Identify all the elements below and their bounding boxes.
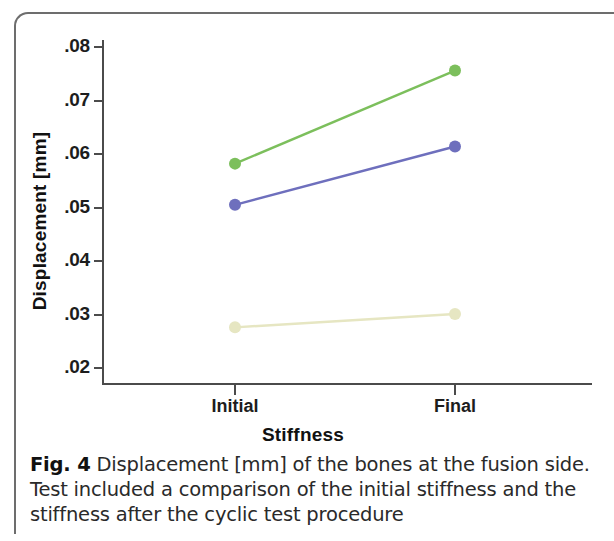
y-axis-title: Displacement [mm]: [29, 111, 51, 331]
figure-caption-label: Fig. 4: [30, 453, 91, 476]
series-point-marker: [229, 199, 241, 211]
chart-series-yellow-series: [229, 308, 461, 333]
series-point-marker: [229, 321, 241, 333]
series-point-marker: [449, 308, 461, 320]
series-line: [235, 71, 455, 164]
figure-caption: Fig. 4 Displacement [mm] of the bones at…: [30, 452, 590, 527]
series-point-marker: [449, 141, 461, 153]
series-line: [235, 147, 455, 205]
figure-caption-text: Displacement [mm] of the bones at the fu…: [30, 453, 590, 526]
x-axis-title: Stiffness: [0, 424, 606, 446]
data-series-layer: [0, 0, 606, 440]
chart-plot-area: .02.03.04.05.06.07.08 InitialFinal Displ…: [0, 0, 606, 440]
series-point-marker: [449, 65, 461, 77]
series-line: [235, 314, 455, 327]
series-point-marker: [229, 158, 241, 170]
